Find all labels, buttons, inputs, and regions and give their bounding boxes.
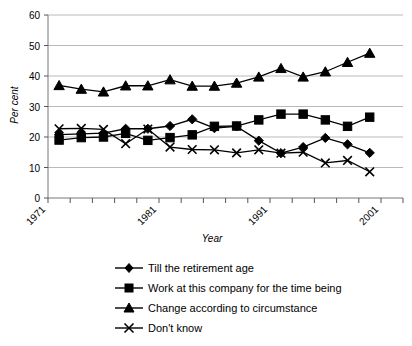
triangle-marker [254, 72, 264, 81]
square-marker [343, 122, 351, 130]
legend-label-3: Don't know [148, 322, 202, 334]
diamond-marker [254, 136, 263, 145]
legend-item-dont-know[interactable]: Don't know [115, 322, 202, 334]
y-tick-marks [44, 15, 48, 198]
triangle-marker [365, 48, 375, 57]
diamond-marker [365, 148, 374, 157]
y-tick-label-20: 20 [29, 132, 41, 143]
x-tick-label-2001: 2001 [357, 203, 381, 227]
cropped-title-remnant [66, 0, 186, 5]
legend-item-change-according-to-circumstance[interactable]: Change according to circumstance [115, 302, 317, 314]
x-tick-label-1991: 1991 [246, 203, 270, 227]
square-marker [232, 122, 240, 130]
square-marker [55, 136, 63, 144]
y-tick-label-0: 0 [34, 193, 40, 204]
square-marker [121, 129, 129, 137]
square-marker [125, 284, 133, 292]
square-marker [255, 116, 263, 124]
x-tick-labels: 1971 1981 1991 2001 [24, 203, 381, 227]
x-tick-marks [48, 198, 403, 203]
legend-item-till-the-retirement-age[interactable]: Till the retirement age [115, 262, 254, 274]
x-tick-label-1971: 1971 [24, 203, 48, 227]
series-triangle [54, 48, 375, 96]
diamond-marker [188, 115, 197, 124]
diamond-marker [343, 140, 352, 149]
x-marker [365, 167, 374, 176]
y-tick-label-10: 10 [29, 163, 41, 174]
chart-figure: 60 50 40 30 20 10 0 Per cent [0, 0, 412, 346]
square-marker [299, 110, 307, 118]
diamond-marker [165, 121, 174, 130]
line-chart: 60 50 40 30 20 10 0 Per cent [0, 0, 412, 346]
square-marker [166, 133, 174, 141]
triangle-marker [342, 57, 352, 66]
y-tick-label-60: 60 [29, 10, 41, 21]
y-tick-label-50: 50 [29, 41, 41, 52]
legend-label-1: Work at this company for the time being [148, 282, 342, 294]
triangle-marker [320, 67, 330, 76]
diamond-marker [321, 133, 330, 142]
triangle-marker [276, 63, 286, 72]
x-marker [121, 139, 130, 148]
y-tick-label-40: 40 [29, 71, 41, 82]
legend-label-2: Change according to circumstance [148, 302, 317, 314]
square-marker [321, 116, 329, 124]
square-marker [210, 122, 218, 130]
square-marker [277, 110, 285, 118]
y-tick-labels: 60 50 40 30 20 10 0 [29, 10, 41, 204]
square-marker [188, 131, 196, 139]
diamond-marker [125, 264, 133, 273]
y-tick-label-30: 30 [29, 102, 41, 113]
square-marker [99, 133, 107, 141]
square-marker [366, 113, 374, 121]
data-series-layer [54, 48, 375, 176]
square-marker [144, 136, 152, 144]
legend-item-work-at-this-company-for-the-time-being[interactable]: Work at this company for the time being [115, 282, 342, 294]
y-axis-title: Per cent [9, 85, 20, 123]
diamond-marker [299, 142, 308, 151]
chart-legend: Till the retirement age Work at this com… [115, 262, 342, 334]
square-marker [77, 133, 85, 141]
legend-label-0: Till the retirement age [148, 262, 254, 274]
x-axis-title: Year [202, 233, 223, 244]
x-tick-label-1981: 1981 [135, 203, 159, 227]
triangle-marker [54, 80, 64, 89]
